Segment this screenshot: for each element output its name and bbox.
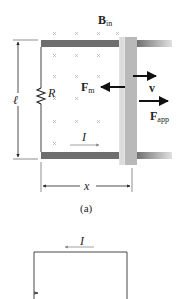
top-rail-extension: [136, 40, 172, 47]
distance-label: x: [84, 180, 89, 192]
resistor-label: R: [48, 87, 55, 99]
rod-highlight: [119, 37, 125, 165]
sliding-rod: [125, 37, 137, 165]
circuit-arrow-b: [34, 292, 38, 294]
resistor-icon: [37, 88, 45, 104]
velocity-label: v: [149, 82, 155, 94]
magnetic-force-label: Fm: [81, 81, 95, 95]
circuit-outline-b: [34, 252, 127, 299]
current-label-b: I: [80, 235, 84, 247]
diagram-canvas: [0, 0, 183, 299]
current-label: I: [82, 131, 86, 143]
bottom-rail-extension: [136, 152, 172, 159]
applied-force-label: Fapp: [150, 110, 169, 124]
figure-caption-a: (a): [80, 203, 92, 214]
field-label: Bin: [98, 14, 112, 28]
length-label: ℓ: [13, 94, 18, 106]
